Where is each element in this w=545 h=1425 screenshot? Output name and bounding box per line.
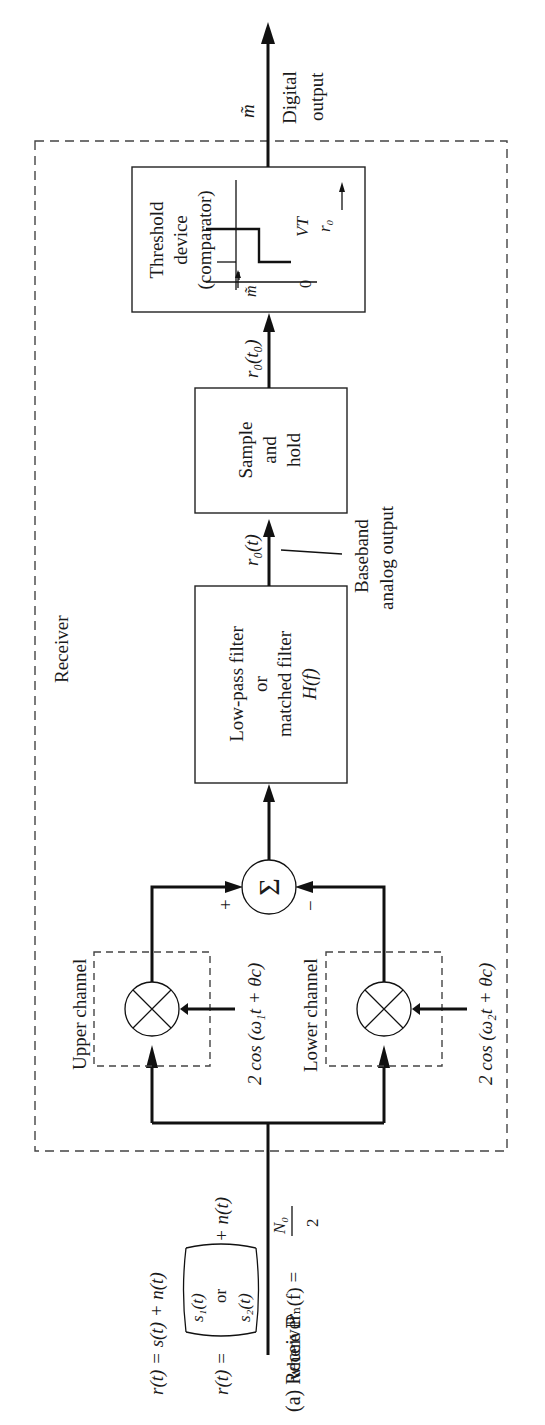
filter-line-2: or bbox=[250, 675, 271, 692]
digital-output-arrow bbox=[261, 22, 275, 44]
filter-block bbox=[195, 586, 347, 783]
input-equation-1: r(t) = s(t) + n(t) bbox=[146, 1272, 168, 1395]
receiver-block-diagram: (a) Receiver r(t) = s(t) + n(t) r(t) = s… bbox=[0, 0, 545, 1425]
upper-channel-label: Upper channel bbox=[69, 959, 90, 1070]
output-label-1: Digital bbox=[279, 71, 300, 124]
upper-osc-arrow bbox=[180, 1003, 188, 1015]
noise-psd-numerator: N₀ bbox=[270, 1217, 289, 1235]
filter-to-sh-arrow bbox=[263, 519, 275, 537]
output-symbol: m̃ bbox=[237, 104, 258, 118]
input-equation-2-prefix: r(t) = bbox=[211, 1352, 233, 1395]
lower-to-summer-arrow bbox=[295, 881, 313, 893]
input-equation-2-suffix: + n(t) bbox=[211, 1197, 233, 1242]
receiver-label: Receiver bbox=[51, 615, 72, 683]
lower-osc-arrow bbox=[412, 1003, 420, 1015]
threshold-line-3: (comparator) bbox=[194, 190, 216, 289]
lower-input-arrow bbox=[378, 1045, 390, 1068]
input-or: or bbox=[211, 1289, 230, 1304]
summer-to-filter-arrow bbox=[263, 784, 275, 802]
threshold-zero-label: 0 bbox=[297, 280, 314, 288]
baseband-label-2: analog output bbox=[376, 505, 397, 610]
upper-mixer bbox=[125, 982, 179, 1036]
sample-hold-line-2: and bbox=[259, 436, 280, 464]
threshold-line-1: Threshold bbox=[146, 201, 167, 279]
filter-line-4: H(f) bbox=[299, 668, 321, 701]
noise-psd-denominator: 2 bbox=[303, 1219, 322, 1228]
baseband-leader-line bbox=[281, 550, 342, 554]
baseband-label-1: Baseband bbox=[351, 519, 372, 593]
threshold-vt-label: VT bbox=[293, 216, 312, 237]
threshold-x-axis-label: r₀ bbox=[315, 219, 334, 232]
sample-hold-line-3: hold bbox=[283, 433, 304, 467]
noise-psd-label: where ℙₙ(f) = bbox=[283, 1272, 305, 1380]
lower-channel-label: Lower channel bbox=[300, 959, 321, 1072]
upper-sign-plus: + bbox=[215, 899, 236, 910]
upper-input-arrow bbox=[146, 1045, 158, 1068]
threshold-line-2: device bbox=[170, 215, 191, 265]
lower-oscillator-label: 2 cos (ω₂t + θc) bbox=[475, 963, 497, 1085]
lower-to-summer-line bbox=[310, 887, 384, 982]
upper-to-summer-arrow bbox=[225, 881, 243, 893]
lower-mixer bbox=[357, 982, 411, 1036]
sample-hold-line-1: Sample bbox=[235, 422, 256, 479]
lower-sign-minus: − bbox=[300, 900, 321, 911]
filter-line-1: Low-pass filter bbox=[226, 626, 247, 742]
summer-sigma: Σ bbox=[252, 878, 285, 895]
sampled-signal-label: r₀(t₀) bbox=[241, 339, 263, 378]
output-label-2: output bbox=[306, 72, 327, 121]
baseband-signal-label: r₀(t) bbox=[241, 534, 263, 566]
filter-line-3: matched filter bbox=[274, 630, 295, 737]
threshold-y-axis-label: m̃ bbox=[242, 285, 259, 297]
input-s1: s₁(t) bbox=[188, 1293, 207, 1322]
sh-to-threshold-arrow bbox=[263, 313, 275, 332]
input-s2: s₂(t) bbox=[235, 1293, 254, 1322]
upper-oscillator-label: 2 cos (ω₁t + θc) bbox=[244, 963, 266, 1085]
